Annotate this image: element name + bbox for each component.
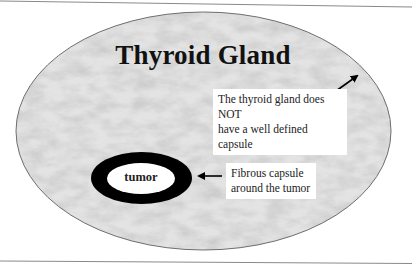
gland-note-line-1: The thyroid gland does NOT bbox=[218, 92, 342, 122]
tumor-label: tumor bbox=[107, 170, 175, 185]
gland-note-line-2: have a well defined capsule bbox=[218, 122, 342, 152]
gland-capsule-note: The thyroid gland does NOT have a well d… bbox=[213, 89, 347, 155]
top-rule-line bbox=[0, 1, 412, 7]
bottom-rule-line bbox=[0, 261, 412, 264]
diagram-title: Thyroid Gland bbox=[110, 40, 296, 71]
capsule-note-line-2: around the tumor bbox=[231, 181, 311, 196]
fibrous-capsule-note: Fibrous capsule around the tumor bbox=[226, 163, 316, 199]
capsule-note-line-1: Fibrous capsule bbox=[231, 166, 311, 181]
